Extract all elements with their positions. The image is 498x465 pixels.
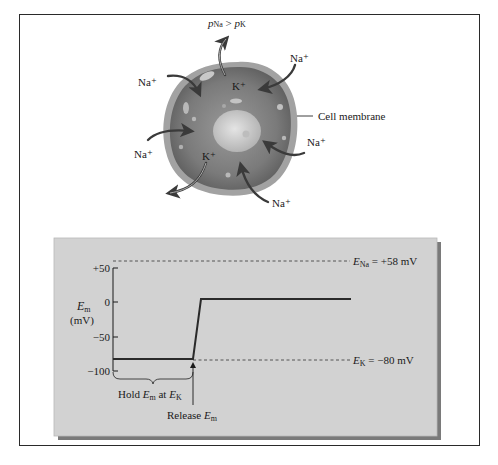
nucleolus [243,131,250,138]
figure-canvas: pNa > pK Na⁺ Na⁺ Na⁺ Na⁺ Na⁺ K⁺ K⁺ Cell … [0,0,498,465]
cell-nucleus [213,110,261,152]
y-tick-0: 0 [105,296,111,308]
organelle-vesicle [179,145,183,149]
cell-illustration [163,62,297,196]
y-tick-plus50: +50 [93,262,111,274]
organelle-vesicle [230,99,242,104]
k-label-top: K⁺ [232,80,246,92]
na-label-bottom: Na⁺ [272,197,291,209]
organelle-vesicle [282,136,286,140]
na-label-right-lower: Na⁺ [307,136,326,148]
na-label-top-right: Na⁺ [290,52,309,64]
organelle-vesicle [277,104,283,110]
organelle-vesicle [226,173,231,178]
organelle-vesicle [183,102,189,114]
release-label: Release Em [167,409,218,423]
graph-panel-background [54,238,437,436]
cell-membrane-label: Cell membrane [318,110,386,122]
organelle-vesicle [192,117,196,121]
organelle-vesicle [222,104,226,108]
na-label-left-upper: Na⁺ [138,76,157,88]
graph-panel [54,238,441,440]
na-label-left-lower: Na⁺ [134,148,153,160]
y-tick-minus100: −100 [87,365,110,377]
y-tick-minus50: −50 [93,331,111,343]
k-label-bottom: K⁺ [202,150,216,162]
permeability-label: pNa > pK [207,17,246,29]
y-axis-unit: (mV) [70,314,94,327]
